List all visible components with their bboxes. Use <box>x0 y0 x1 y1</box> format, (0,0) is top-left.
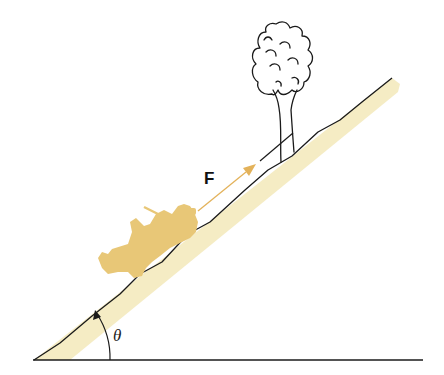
incline-shading <box>34 78 400 360</box>
tree <box>252 22 312 162</box>
force-label: F <box>204 169 214 188</box>
cable-line <box>260 133 293 161</box>
angle-label: θ <box>113 326 121 345</box>
inclined-plane-diagram: F θ <box>0 0 444 375</box>
